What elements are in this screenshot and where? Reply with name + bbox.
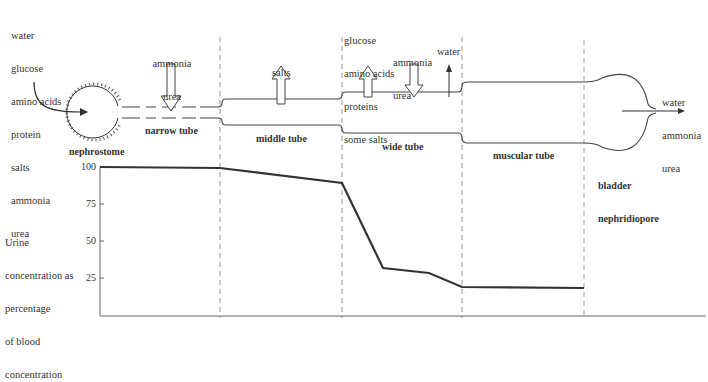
bladder-label: bladder nephridiopore <box>598 158 659 235</box>
label-line: of blood <box>5 336 74 347</box>
label-line: ammonia <box>393 57 432 68</box>
middle-tube-label: middle tube <box>256 133 307 144</box>
input-item: water <box>11 30 61 41</box>
narrow-in-label: ammonia urea <box>150 36 194 113</box>
label-line: salts <box>272 67 291 78</box>
label-line: concentration as <box>5 270 74 281</box>
label-line: nephridiopore <box>598 213 659 224</box>
y-tick-100: 100 <box>66 161 96 172</box>
wide-water-label: water <box>437 46 460 57</box>
input-item: glucose <box>11 63 61 74</box>
muscular-tube-label: muscular tube <box>493 150 554 161</box>
label-line: amino acids <box>344 68 394 79</box>
wide-out-label: glucose amino acids proteins some salts <box>344 13 394 156</box>
label-line: ammonia <box>150 58 194 69</box>
input-item: amino acids <box>11 96 61 107</box>
label-line: bladder <box>598 180 659 191</box>
y-tick-75: 75 <box>66 198 96 209</box>
wide-in-label: ammonia urea <box>393 35 432 112</box>
narrow-tube-label: narrow tube <box>145 125 198 136</box>
label-line: urea <box>150 91 194 102</box>
wide-tube-label: wide tube <box>382 141 423 152</box>
label-line: concentration <box>5 369 74 380</box>
inputs-label: water glucose amino acids protein salts … <box>11 8 61 250</box>
middle-out-label: salts <box>272 45 291 89</box>
outputs-label: water ammonia urea <box>662 75 701 185</box>
label-line: ammonia <box>662 130 701 141</box>
input-item: ammonia <box>11 195 61 206</box>
label-line: glucose <box>344 35 394 46</box>
nephrostome-label: nephrostome <box>69 146 124 157</box>
label-line: urea <box>662 163 701 174</box>
y-axis-label: Urine concentration as percentage of blo… <box>5 215 74 382</box>
label-line: Urine <box>5 237 74 248</box>
label-line: percentage <box>5 303 74 314</box>
label-line: water <box>662 97 701 108</box>
label-line: urea <box>393 90 432 101</box>
label-line: proteins <box>344 101 394 112</box>
input-item: salts <box>11 162 61 173</box>
input-item: protein <box>11 129 61 140</box>
